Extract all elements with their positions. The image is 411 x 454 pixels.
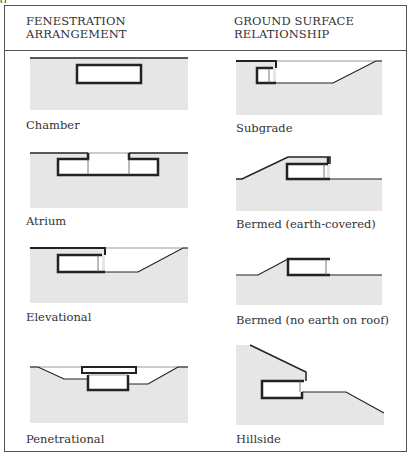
label-chamber: Chamber — [26, 118, 80, 132]
label-hillside: Hillside — [236, 432, 281, 446]
diagram-chamber — [28, 55, 193, 115]
diagram-subgrade — [236, 58, 386, 118]
diagram-penetrational — [28, 365, 193, 427]
label-atrium: Atrium — [26, 214, 66, 228]
label-penetrational: Penetrational — [26, 432, 104, 446]
header-right-line2: RELATIONSHIP — [234, 28, 354, 41]
label-elevational: Elevational — [26, 310, 91, 324]
diagram-bermed-no-earth — [236, 255, 386, 310]
header-ground-surface: GROUND SURFACE RELATIONSHIP — [234, 15, 354, 41]
header-fenestration: FENESTRATION ARRANGEMENT — [26, 15, 127, 41]
label-subgrade: Subgrade — [236, 121, 293, 135]
header-left-line2: ARRANGEMENT — [26, 28, 127, 41]
cropped-caption-text: g — [0, 0, 411, 3]
header-divider — [5, 50, 406, 51]
diagram-atrium — [28, 150, 193, 210]
label-bermed-earth-covered: Bermed (earth-covered) — [236, 217, 376, 231]
diagram-elevational — [28, 245, 193, 305]
diagram-bermed-earth-covered — [236, 155, 386, 215]
diagram-hillside — [236, 345, 386, 430]
label-bermed-no-earth: Bermed (no earth on roof) — [236, 313, 389, 327]
